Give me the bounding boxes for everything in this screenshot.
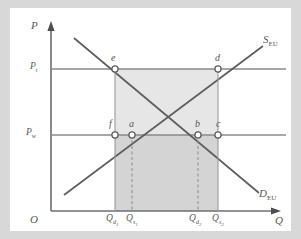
x-tick-qs1-sub: s1 (133, 219, 138, 225)
demand-curve-label-text: D (259, 187, 267, 199)
y-axis-arrow-icon (47, 21, 54, 31)
economics-diagram (10, 8, 291, 231)
x-tick-label-qs2: Qs2 (212, 214, 224, 227)
x-tick-qs1-sub-b: 1 (135, 222, 138, 227)
point-label-f: f (109, 119, 112, 129)
point-marker-c (215, 132, 221, 138)
price-label-world: Pw (26, 128, 36, 139)
x-tick-qd2-sub-b: 2 (199, 222, 202, 227)
point-label-e: e (111, 53, 115, 63)
point-marker-b (195, 132, 201, 138)
demand-curve-label-sub: EU (267, 194, 276, 202)
origin-label: O (30, 214, 38, 225)
x-tick-label-qs1: Qs1 (126, 214, 138, 227)
x-tick-qs2-text: Q (212, 213, 219, 223)
supply-curve-label: SEU (263, 34, 278, 48)
demand-curve-label: DEU (259, 188, 276, 202)
x-tick-qs2-sub: s2 (219, 219, 224, 225)
x-tick-qd2-text: Q (189, 213, 196, 223)
y-axis-label: P (31, 20, 38, 31)
price-label-world-sub: w (32, 133, 36, 139)
x-tick-label-qd2: Qd2 (189, 214, 201, 227)
supply-curve-label-sub: EU (269, 40, 278, 48)
x-tick-qd1-sub-b: 1 (116, 222, 119, 227)
point-label-d: d (215, 53, 220, 63)
point-label-a: a (129, 119, 134, 129)
point-label-c: c (216, 119, 220, 129)
point-marker-e (112, 66, 118, 72)
point-marker-a (129, 132, 135, 138)
x-tick-label-qd1: Qd1 (106, 214, 118, 227)
point-marker-d (215, 66, 221, 72)
x-tick-qd1-text: Q (106, 213, 113, 223)
price-label-tariff: Pt (30, 62, 37, 73)
x-tick-qs1-text: Q (126, 213, 133, 223)
price-label-tariff-sub: t (36, 67, 38, 73)
x-tick-qd2-sub: d2 (196, 219, 202, 225)
figure-panel: P Q O Pt Pw SEU DEU e d f a b c Qd1 Qs1 … (10, 8, 291, 231)
x-axis-label: Q (275, 215, 283, 226)
point-label-b: b (195, 119, 200, 129)
point-marker-f (112, 132, 118, 138)
x-tick-qd1-sub: d1 (113, 219, 119, 225)
x-tick-qs2-sub-b: 2 (221, 222, 224, 227)
